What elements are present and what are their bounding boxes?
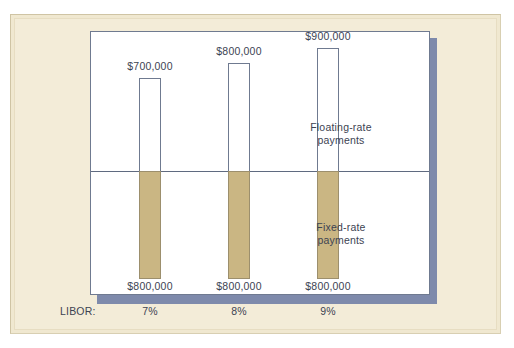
x-axis-title: LIBOR: xyxy=(60,305,96,317)
x-axis: LIBOR: 7% 8% 9% xyxy=(90,305,435,323)
bar-group-7pct: $700,000 $800,000 xyxy=(139,32,163,294)
bar-value-label-fixed: $800,000 xyxy=(189,280,289,292)
chart-figure: $700,000 $800,000 $800,000 $800,000 $900… xyxy=(0,0,514,348)
bar-group-8pct: $800,000 $800,000 xyxy=(228,32,252,294)
bar-fixed-rate xyxy=(228,171,250,279)
bar-group-9pct: $900,000 $800,000 xyxy=(317,32,341,294)
x-axis-tick-7pct: 7% xyxy=(120,305,180,317)
legend-label-floating-rate: Floating-rate payments xyxy=(286,121,396,147)
bar-value-label-fixed: $800,000 xyxy=(278,280,378,292)
legend-label-floating-rate-line2: payments xyxy=(286,134,396,147)
bar-fixed-rate xyxy=(139,171,161,279)
bar-value-label-floating: $700,000 xyxy=(100,60,200,72)
bar-value-label-floating: $900,000 xyxy=(278,30,378,42)
bar-floating-rate xyxy=(317,48,339,172)
bar-value-label-fixed: $800,000 xyxy=(100,280,200,292)
legend-label-floating-rate-line1: Floating-rate xyxy=(286,121,396,134)
bar-floating-rate xyxy=(139,78,161,172)
x-axis-tick-8pct: 8% xyxy=(209,305,269,317)
legend-label-fixed-rate: Fixed-rate payments xyxy=(286,221,396,247)
bar-floating-rate xyxy=(228,63,250,172)
x-axis-tick-9pct: 9% xyxy=(298,305,358,317)
legend-label-fixed-rate-line2: payments xyxy=(286,234,396,247)
bar-value-label-floating: $800,000 xyxy=(189,45,289,57)
legend-label-fixed-rate-line1: Fixed-rate xyxy=(286,221,396,234)
plot-area: $700,000 $800,000 $800,000 $800,000 $900… xyxy=(90,31,430,295)
